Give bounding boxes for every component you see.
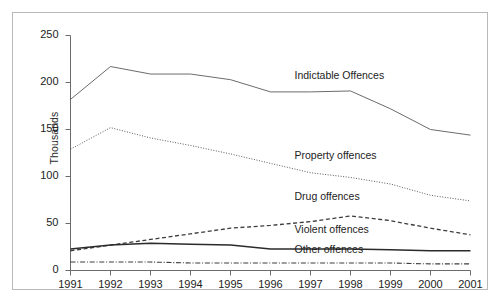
series-line-property-offences	[71, 128, 471, 201]
series-label-property-offences: Property offences	[295, 149, 377, 161]
series-label-other-offences: Other offences	[295, 243, 364, 255]
data-series-layer	[71, 67, 471, 264]
series-label-indictable-offences: Indictable Offences	[295, 69, 385, 81]
axis-ticks	[66, 36, 471, 276]
series-label-drug-offences: Drug offences	[295, 190, 360, 202]
series-line-other-offences	[71, 262, 471, 264]
chart-plot-area	[0, 0, 501, 306]
series-line-indictable-offences	[71, 67, 471, 136]
chart-figure: Thousands 050100150200250 19911992199319…	[0, 0, 501, 306]
series-line-violent-offences	[71, 243, 471, 251]
axis-lines	[71, 36, 471, 271]
series-line-drug-offences	[71, 216, 471, 251]
series-label-violent-offences: Violent offences	[295, 223, 369, 235]
